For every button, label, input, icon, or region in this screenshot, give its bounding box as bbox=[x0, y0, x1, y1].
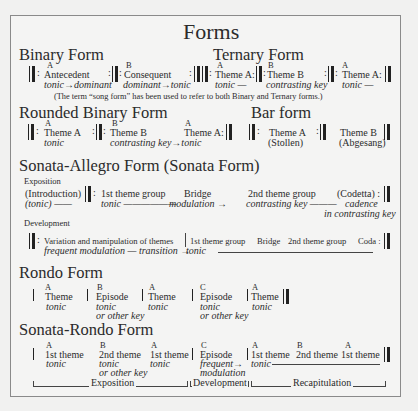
section-key: contrasting key bbox=[266, 80, 327, 90]
section-key: dominant→tonic bbox=[123, 80, 191, 90]
repeat-colon: : bbox=[263, 68, 266, 78]
barline bbox=[99, 124, 102, 140]
second-theme-key: contrasting key ——— bbox=[246, 199, 337, 209]
barline bbox=[384, 233, 385, 249]
recap-second-theme: 2nd theme group bbox=[288, 236, 346, 246]
repeat-barline bbox=[32, 66, 35, 82]
barline bbox=[229, 124, 232, 140]
bridge-key: modulation → bbox=[169, 199, 227, 209]
repeat-colon: : bbox=[335, 68, 338, 78]
section-key: tonic bbox=[44, 138, 64, 148]
barline bbox=[331, 66, 334, 82]
section-key: tonic bbox=[148, 302, 168, 312]
barline bbox=[247, 348, 248, 360]
continuation-line bbox=[272, 364, 380, 365]
repeat-barline bbox=[252, 124, 255, 140]
section-name: 2nd theme bbox=[296, 350, 338, 360]
development-bracket-label: Development bbox=[192, 378, 248, 388]
sonata-allegro-heading: Sonata-Allegro Form (Sonata Form) bbox=[19, 156, 260, 176]
first-theme-key: tonic —————— bbox=[101, 199, 177, 209]
repeat-colon: : bbox=[37, 235, 40, 245]
repeat-barline bbox=[29, 233, 30, 249]
section-key: tonic — bbox=[342, 80, 373, 90]
repeat-barline bbox=[85, 186, 86, 202]
barline bbox=[33, 289, 34, 301]
barline bbox=[385, 66, 386, 82]
repeat-colon: : bbox=[209, 68, 212, 78]
barline bbox=[387, 186, 390, 202]
repeat-barline bbox=[202, 66, 203, 82]
barline bbox=[259, 66, 262, 82]
barline bbox=[384, 186, 385, 202]
section-name: 1st theme bbox=[341, 350, 380, 360]
repeat-barline bbox=[249, 124, 250, 140]
barline bbox=[328, 66, 329, 82]
section-key: tonic — bbox=[215, 80, 246, 90]
bracket-end bbox=[190, 381, 191, 387]
barline bbox=[194, 66, 195, 82]
exposition-label: Exposition bbox=[24, 176, 61, 186]
bracket-end bbox=[187, 381, 188, 387]
section-key: tonic bbox=[251, 359, 271, 369]
barline bbox=[388, 66, 391, 82]
repeat-colon: : bbox=[93, 188, 96, 198]
section-name: Theme A: bbox=[184, 128, 224, 138]
sonata-rondo-heading: Sonata-Rondo Form bbox=[19, 320, 153, 340]
repeat-colon: : bbox=[257, 126, 260, 136]
bracket-end bbox=[248, 381, 249, 387]
barline bbox=[283, 289, 284, 304]
recap-coda: Coda : bbox=[358, 236, 381, 246]
exposition-bracket-label: Exposition bbox=[89, 378, 136, 388]
barline bbox=[115, 66, 118, 82]
section-key: contrasting key→tonic bbox=[110, 138, 201, 148]
repeat-barline bbox=[31, 124, 34, 140]
barline bbox=[112, 66, 113, 82]
ternary-form-heading: Ternary Form bbox=[213, 45, 304, 65]
repeat-barline bbox=[29, 66, 30, 82]
repeat-colon: : bbox=[189, 68, 192, 78]
repeat-barline bbox=[28, 124, 29, 140]
section-sub: (Abgesang) bbox=[339, 138, 386, 148]
barline bbox=[384, 347, 385, 362]
section-key: tonic bbox=[252, 302, 272, 312]
barline bbox=[192, 289, 193, 301]
repeat-barline bbox=[32, 233, 35, 249]
barline bbox=[33, 348, 34, 360]
bar-form-heading: Bar form bbox=[251, 103, 311, 123]
repeat-colon: : bbox=[36, 126, 39, 136]
repeat-colon: : bbox=[324, 68, 327, 78]
section-key-2: or other key bbox=[200, 311, 248, 321]
recapitulation-bracket-label: Recapitulation bbox=[291, 378, 353, 388]
section-key: tonic bbox=[46, 302, 66, 312]
bracket-end bbox=[385, 381, 386, 387]
page-title: Forms bbox=[183, 19, 239, 45]
repeat-colon: : bbox=[108, 68, 111, 78]
rondo-heading: Rondo Form bbox=[19, 263, 103, 283]
repeat-colon: : bbox=[37, 68, 40, 78]
barline bbox=[256, 66, 257, 82]
repeat-colon: : bbox=[92, 126, 95, 136]
section-key: tonic→dominant bbox=[44, 80, 112, 90]
repeat-barline bbox=[88, 186, 91, 202]
repeat-colon: : bbox=[119, 68, 122, 78]
barline bbox=[323, 124, 326, 140]
barline bbox=[286, 289, 289, 304]
song-form-note: (The term “song form” has been used to r… bbox=[54, 92, 323, 101]
codetta-key-2: in contrasting key bbox=[324, 209, 396, 219]
recap-bridge: Bridge bbox=[257, 236, 280, 246]
recap-key: tonic bbox=[186, 246, 206, 256]
rounded-binary-heading: Rounded Binary Form bbox=[19, 103, 168, 123]
barline bbox=[387, 347, 390, 362]
barline bbox=[87, 289, 88, 301]
barline bbox=[387, 233, 390, 249]
barline bbox=[247, 289, 248, 301]
barline bbox=[192, 348, 193, 360]
bracket-end bbox=[33, 381, 34, 387]
repeat-colon: : bbox=[103, 126, 106, 136]
development-key: frequent modulation — transition → bbox=[44, 246, 190, 256]
barline bbox=[226, 124, 227, 140]
barline bbox=[197, 66, 200, 82]
development-label: Development bbox=[24, 218, 70, 228]
binary-form-heading: Binary Form bbox=[19, 45, 104, 65]
barline bbox=[320, 124, 321, 140]
